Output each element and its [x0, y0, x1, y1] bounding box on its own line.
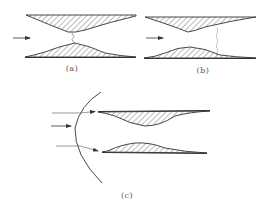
upper-body-c: [98, 111, 210, 126]
panel-b: [144, 17, 256, 59]
lower-body-c: [102, 143, 207, 153]
panel-a: [13, 15, 136, 58]
diagram-figure: [0, 0, 271, 210]
streamline-lower-deflect-c: [80, 146, 98, 151]
panel-label-b: (b): [197, 66, 210, 75]
bow-shock-c: [75, 92, 102, 183]
shock-wave-a: [72, 32, 74, 44]
lower-wall-a: [25, 43, 136, 57]
streamline-upper-deflect-c: [80, 112, 95, 114]
lower-wall-b: [144, 47, 256, 58]
panel-label-c: (c): [121, 191, 133, 200]
upper-wall-b: [145, 17, 256, 32]
upper-wall-a: [26, 15, 136, 32]
panel-label-a: (a): [66, 64, 79, 73]
panel-c: [51, 92, 210, 183]
